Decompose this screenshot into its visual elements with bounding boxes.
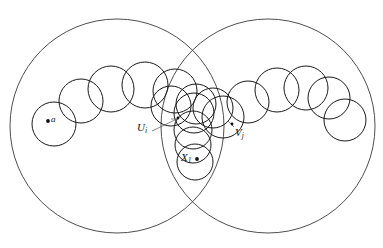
chain-mid-group bbox=[151, 86, 233, 128]
leader-lines-group bbox=[152, 119, 234, 131]
big-circles-group bbox=[10, 19, 375, 233]
point-ui-dot bbox=[177, 117, 180, 120]
chain-circle bbox=[308, 77, 350, 119]
label-x1-base: X bbox=[181, 151, 188, 163]
chain-circle bbox=[227, 81, 269, 123]
label-vj-subscript: j bbox=[242, 131, 244, 140]
label-ui-base: U bbox=[137, 121, 145, 133]
chain-circle bbox=[32, 102, 76, 146]
chain-circle bbox=[151, 86, 191, 126]
chain-left-group bbox=[32, 62, 216, 146]
chain-circle bbox=[284, 66, 328, 110]
label-point-x1: X1 bbox=[181, 152, 191, 165]
leader-line-ui bbox=[152, 119, 177, 131]
chain-right-group bbox=[202, 66, 366, 141]
label-set-vj: Vj bbox=[235, 127, 244, 140]
figure-container: a Ui Vj X1 bbox=[0, 0, 383, 248]
label-vj-base: V bbox=[235, 126, 242, 138]
label-point-a: a bbox=[51, 115, 56, 124]
label-ui-subscript: i bbox=[145, 126, 147, 135]
chain-circle bbox=[59, 79, 103, 123]
label-x1-subscript: 1 bbox=[188, 156, 192, 165]
chain-circle bbox=[122, 62, 168, 108]
label-set-ui: Ui bbox=[137, 122, 147, 135]
point-x1-dot bbox=[195, 157, 199, 161]
label-a-base: a bbox=[51, 114, 56, 124]
chain-circle bbox=[324, 99, 366, 141]
point-a-dot bbox=[46, 119, 50, 123]
chain-center-stack-group bbox=[174, 93, 214, 180]
geometric-diagram-canvas bbox=[0, 0, 383, 248]
chain-circle bbox=[88, 66, 134, 112]
point-vj-dot bbox=[231, 123, 234, 126]
